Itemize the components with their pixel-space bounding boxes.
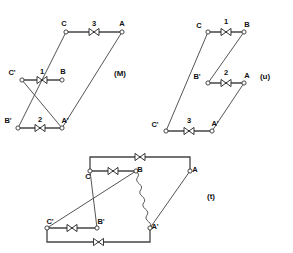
diagram-u-terminal-node-A — [242, 81, 246, 85]
diagram-u-terminal-node-C — [206, 30, 210, 34]
diagram-u-coil-3-valve-right — [189, 127, 194, 134]
diagram-M-coil-number-2: 2 — [38, 115, 42, 124]
diagram-t-terminal-label-B: B — [137, 165, 143, 174]
diagram-u-terminal-label-A: A — [244, 71, 250, 80]
diagram-M-terminal-node-Cp — [20, 78, 24, 82]
figure-content: 312CAC'BB'A'(M)123CBB'AC'A'(u)CBAC'B'A'(… — [4, 17, 270, 246]
diagram-t-terminal-label-C: C — [85, 172, 91, 181]
winding-connection-figure: 312CAC'BB'A'(M)123CBB'AC'A'(u)CBAC'B'A'(… — [0, 0, 293, 253]
diagram-M-terminal-label-A: A — [119, 19, 125, 28]
diagram-M-terminal-node-B — [60, 78, 64, 82]
diagram-u-terminal-label-Ap: A' — [211, 119, 218, 128]
diagram-t-terminal-label-A: A — [192, 165, 198, 174]
diagram-t-terminal-node-Cp — [45, 226, 49, 230]
diagram-M-caption: (M) — [114, 69, 126, 78]
diagram-M-terminal-label-C: C — [61, 19, 67, 28]
diagram-u-terminal-label-Bp: B' — [193, 72, 200, 81]
diagram-M-coil-2-valve-right — [40, 124, 45, 131]
diagram-M-coil-number-1: 1 — [40, 67, 44, 76]
diagram-t-bottom-rail — [47, 228, 150, 242]
diagram-u-coil-number-3: 3 — [187, 116, 191, 125]
diagram-t-terminal-label-Cp: C' — [46, 217, 53, 226]
diagram-u-coil-2-valve-right — [226, 79, 231, 86]
diagram-M-terminal-node-Bp — [16, 126, 20, 130]
diagram-t-connection-A-A' — [150, 171, 190, 228]
diagram-t-coil-C'B'-valve-right — [72, 224, 77, 231]
diagram-M-terminal-node-Ap — [60, 126, 64, 130]
diagram-M-terminal-label-Bp: B' — [4, 116, 11, 125]
diagram-t-caption: (t) — [207, 192, 215, 201]
diagram-M-terminal-label-Ap: A' — [61, 116, 68, 125]
diagram-u-terminal-node-Bp — [206, 81, 210, 85]
diagram-M-terminal-node-C — [64, 30, 68, 34]
diagram-u-coil-number-1: 1 — [224, 17, 228, 26]
diagram-M-connection-A-A' — [62, 32, 122, 128]
diagram-M-terminal-label-B: B — [60, 67, 66, 76]
diagram-t-wavy-connection-3 — [136, 171, 151, 228]
diagram-u-terminal-label-Cp: C' — [151, 120, 158, 129]
diagram-M-coil-3-valve-right — [94, 28, 99, 35]
diagram-M-coil-number-3: 3 — [92, 19, 96, 28]
diagram-t-coil-CB-valve-right — [113, 167, 118, 174]
diagram-u-terminal-node-Cp — [164, 129, 168, 133]
diagram-M-terminal-node-A — [120, 30, 124, 34]
diagram-t-bottom-rail-valve-right — [99, 238, 104, 245]
diagram-u-terminal-label-C: C — [196, 21, 202, 30]
diagram-u-caption: (u) — [260, 72, 271, 81]
diagram-t-top-rail-valve-right — [140, 153, 145, 160]
diagram-u-terminal-node-B — [242, 30, 246, 34]
diagram-u-terminal-label-B: B — [244, 20, 250, 29]
diagram-u-terminal-node-Ap — [210, 129, 214, 133]
diagram-t-terminal-node-Bp — [95, 226, 99, 230]
diagram-M-terminal-label-Cp: C' — [8, 68, 15, 77]
diagram-u-coil-1-valve-right — [226, 28, 231, 35]
diagram-u-coil-number-2: 2 — [224, 68, 228, 77]
diagram-t-terminal-label-Bp: B' — [97, 217, 104, 226]
diagram-t-terminal-label-Ap: A' — [151, 222, 158, 231]
